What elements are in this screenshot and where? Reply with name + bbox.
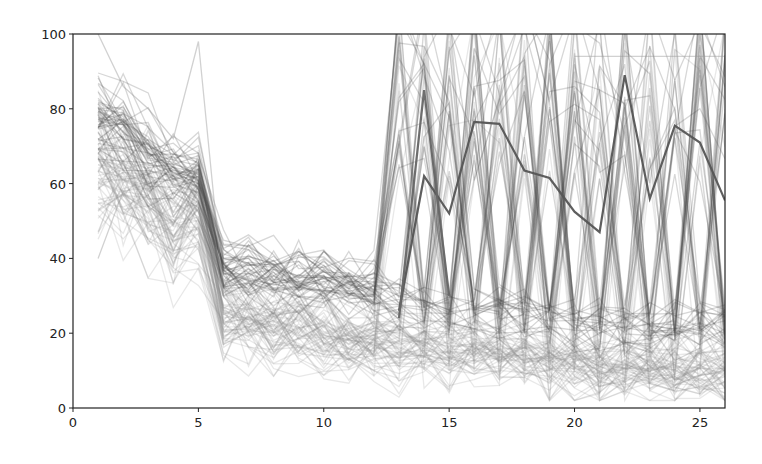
x-axis: 0510152025 bbox=[69, 408, 708, 430]
x-tick-label: 10 bbox=[315, 415, 332, 430]
y-axis: 020406080100 bbox=[41, 27, 73, 416]
x-tick-label: 0 bbox=[69, 415, 77, 430]
y-tick-label: 100 bbox=[41, 27, 66, 42]
y-tick-label: 20 bbox=[49, 326, 66, 341]
chart-canvas: 0510152025 020406080100 bbox=[0, 0, 762, 464]
x-tick-label: 20 bbox=[566, 415, 583, 430]
y-tick-label: 0 bbox=[58, 401, 66, 416]
x-tick-label: 15 bbox=[441, 415, 458, 430]
x-tick-label: 25 bbox=[692, 415, 709, 430]
y-tick-label: 40 bbox=[49, 251, 66, 266]
x-tick-label: 5 bbox=[194, 415, 202, 430]
y-tick-label: 80 bbox=[49, 102, 66, 117]
y-tick-label: 60 bbox=[49, 177, 66, 192]
line-chart: 0510152025 020406080100 bbox=[0, 0, 762, 464]
series-layer bbox=[98, 0, 725, 400]
